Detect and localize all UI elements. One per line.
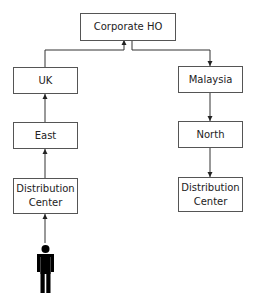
edge-uk-hq — [45, 41, 124, 67]
node-distribution-center-left: Distribution Center — [13, 178, 78, 214]
node-north: North — [178, 121, 243, 148]
edge-hq-malaysia — [132, 40, 210, 66]
node-malaysia: Malaysia — [178, 66, 243, 93]
node-uk: UK — [13, 67, 78, 94]
arrowhead-up-uk — [43, 94, 48, 99]
node-corporate-hq: Corporate HO — [80, 13, 176, 41]
arrowhead-up-east — [43, 149, 48, 154]
node-east: East — [13, 122, 78, 149]
node-distribution-center-right: Distribution Center — [178, 177, 243, 212]
person-icon — [37, 245, 54, 293]
arrowhead-up-dcleft — [43, 214, 48, 219]
connectors — [0, 0, 253, 301]
